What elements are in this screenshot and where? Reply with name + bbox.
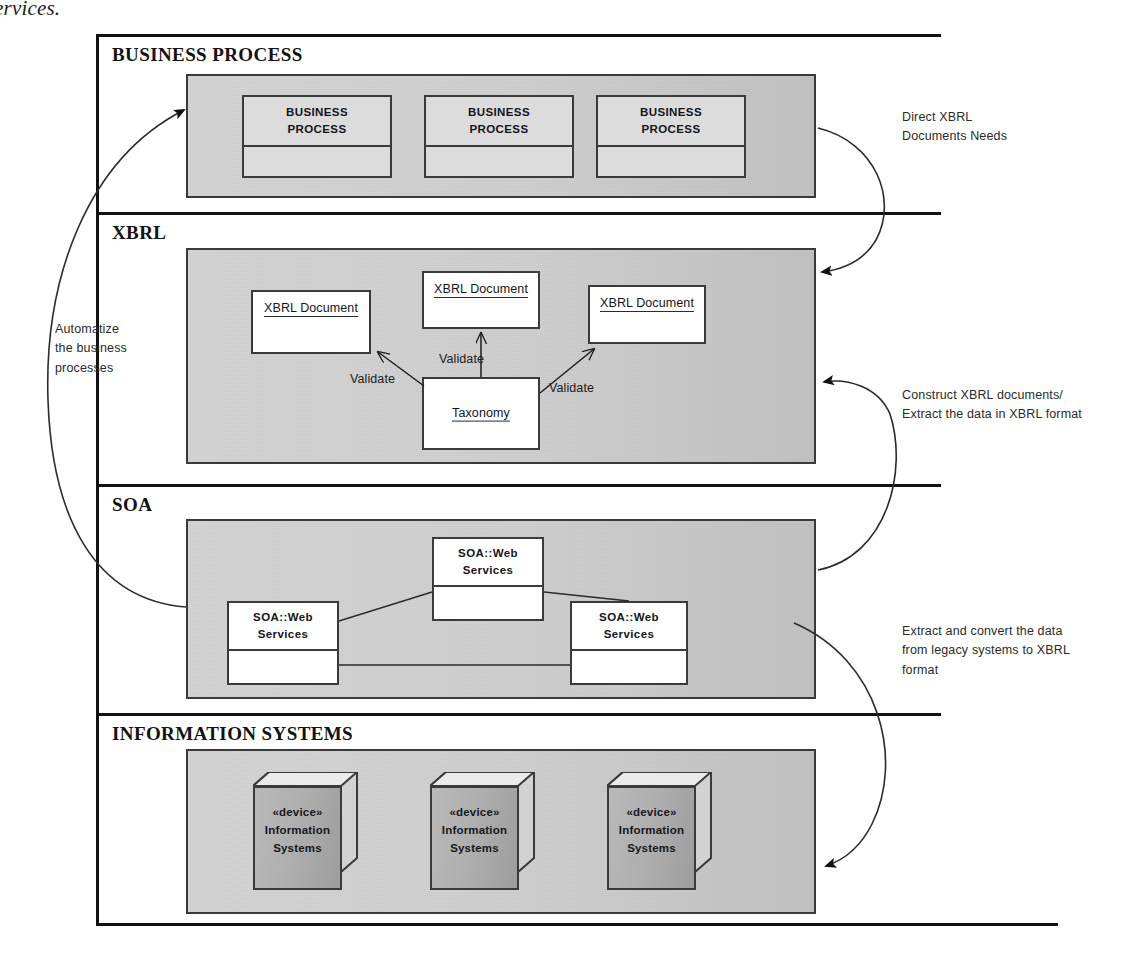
annotation-direct-xbrl-documents-needs: Direct XBRL Documents Needs — [902, 108, 1117, 147]
xbrl-document-label: XBRL Document — [253, 301, 369, 315]
band-rule-xbrl-soa — [96, 484, 941, 487]
xbrl-document-box[interactable]: XBRL Document — [251, 290, 371, 354]
business-process-node-body — [598, 147, 744, 176]
validate-edge-label-right: Validate — [549, 381, 594, 395]
band-rule-business-xbrl — [96, 212, 941, 215]
business-process-node[interactable]: BUSINESSPROCESS — [596, 95, 746, 178]
diagram-canvas: ervices. BUSINESS PROCESS XBRL SOA INFOR… — [0, 0, 1128, 964]
business-process-node-label: BUSINESSPROCESS — [598, 97, 744, 147]
taxonomy-box[interactable]: Taxonomy — [422, 377, 540, 450]
business-process-node[interactable]: BUSINESSPROCESS — [424, 95, 574, 178]
device-node-face: «device» Information Systems — [607, 786, 696, 890]
device-stereotype: «device» — [272, 804, 322, 822]
information-systems-device-node[interactable]: «device» Information Systems — [253, 772, 358, 890]
device-node-line2: Systems — [273, 840, 322, 858]
device-node-line2: Systems — [627, 840, 676, 858]
connector-soa-to-xbrl — [818, 381, 896, 570]
soa-web-services-label: SOA::WebServices — [572, 603, 686, 651]
band-rule-top — [96, 34, 941, 37]
band-title-soa: SOA — [112, 494, 152, 516]
soa-web-services-body — [229, 651, 337, 683]
connector-business-process-to-xbrl — [818, 128, 884, 272]
soa-web-services-label: SOA::WebServices — [434, 539, 542, 587]
xbrl-document-box[interactable]: XBRL Document — [588, 285, 706, 344]
annotation-automatize-business-processes: Automatize the business processes — [55, 320, 185, 378]
business-process-node-body — [426, 147, 572, 176]
taxonomy-label: Taxonomy — [424, 405, 538, 419]
soa-web-services-node[interactable]: SOA::WebServices — [432, 537, 544, 621]
band-rule-bottom — [96, 923, 1058, 926]
soa-web-services-body — [434, 587, 542, 619]
device-stereotype: «device» — [626, 804, 676, 822]
frame-left-rule — [96, 34, 99, 926]
xbrl-document-label: XBRL Document — [424, 282, 538, 296]
business-process-node[interactable]: BUSINESSPROCESS — [242, 95, 392, 178]
device-node-face: «device» Information Systems — [430, 786, 519, 890]
device-node-line2: Systems — [450, 840, 499, 858]
soa-web-services-node[interactable]: SOA::WebServices — [227, 601, 339, 685]
device-node-line1: Information — [442, 822, 507, 840]
band-title-information-systems: INFORMATION SYSTEMS — [112, 723, 353, 745]
device-node-line1: Information — [265, 822, 330, 840]
band-title-xbrl: XBRL — [112, 222, 166, 244]
validate-edge-label-left: Validate — [350, 372, 395, 386]
soa-web-services-label: SOA::WebServices — [229, 603, 337, 651]
annotation-extract-convert-legacy-data: Extract and convert the data from legacy… — [902, 622, 1117, 680]
business-process-node-body — [244, 147, 390, 176]
business-process-node-label: BUSINESSPROCESS — [426, 97, 572, 147]
information-systems-device-node[interactable]: «device» Information Systems — [607, 772, 712, 890]
band-title-business-process: BUSINESS PROCESS — [112, 44, 303, 66]
caption-fragment: ervices. — [0, 0, 60, 21]
soa-web-services-body — [572, 651, 686, 683]
business-process-node-label: BUSINESSPROCESS — [244, 97, 390, 147]
xbrl-document-box[interactable]: XBRL Document — [422, 271, 540, 329]
device-node-face: «device» Information Systems — [253, 786, 342, 890]
device-node-line1: Information — [619, 822, 684, 840]
validate-edge-label-center: Validate — [439, 352, 484, 366]
soa-web-services-node[interactable]: SOA::WebServices — [570, 601, 688, 685]
annotation-construct-xbrl-documents: Construct XBRL documents/ Extract the da… — [902, 386, 1127, 425]
device-stereotype: «device» — [449, 804, 499, 822]
xbrl-document-label: XBRL Document — [590, 296, 704, 310]
band-rule-soa-information — [96, 713, 941, 716]
information-systems-device-node[interactable]: «device» Information Systems — [430, 772, 535, 890]
